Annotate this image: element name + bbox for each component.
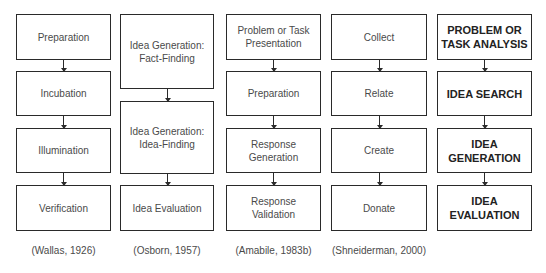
stage-box-incubation: Incubation [16,71,111,116]
arrow-down-icon [273,116,274,128]
stage-label: Donate [363,202,395,215]
arrow-down-icon [273,173,274,185]
stage-box-relate: Relate [331,71,427,116]
stage-box-preparation: Preparation [226,71,321,116]
citation-caption: (Shneiderman, 2000) [321,245,437,256]
stage-box-idea-finding: Idea Generation: Idea-Finding [120,101,214,174]
stage-label: Illumination [38,144,89,157]
stage-box-collect: Collect [331,14,427,60]
stage-label: Collect [364,31,395,44]
stage-box-idea-search: IDEA SEARCH [437,71,532,116]
arrow-down-icon [484,116,485,128]
citation-caption: (Osborn, 1957) [120,245,214,256]
stage-label: Verification [39,202,88,215]
arrow-down-icon [379,116,380,128]
stage-label: Preparation [248,87,300,100]
arrow-down-icon [379,173,380,185]
citation-caption: (Amabile, 1983b) [226,245,321,256]
stage-label: Create [364,144,394,157]
stage-box-problem-analysis: PROBLEM OR TASK ANALYSIS [437,14,532,60]
stage-box-illumination: Illumination [16,128,111,173]
stage-label: Incubation [40,87,86,100]
stage-box-verification: Verification [16,185,111,231]
stage-box-preparation: Preparation [16,14,111,60]
stage-label: Response Validation [251,195,296,221]
stage-box-response-validation: Response Validation [226,185,321,231]
stage-box-response-generation: Response Generation [226,128,321,173]
stage-label: Preparation [38,31,90,44]
stage-label: PROBLEM OR TASK ANALYSIS [441,23,527,51]
stage-label: Idea Generation: Idea-Finding [130,125,205,151]
citation-caption: (Wallas, 1926) [16,245,111,256]
stage-box-create: Create [331,128,427,173]
arrow-down-icon [63,173,64,185]
stage-label: Relate [365,87,394,100]
arrow-down-icon [167,174,168,185]
arrow-down-icon [63,60,64,71]
stage-label: IDEA SEARCH [447,87,522,101]
stage-box-idea-generation: IDEA GENERATION [437,128,532,173]
stage-box-donate: Donate [331,185,427,231]
stage-box-idea-evaluation: Idea Evaluation [120,185,214,231]
stage-label: IDEA EVALUATION [450,194,520,222]
stage-label: Response Generation [249,138,298,164]
stage-box-fact-finding: Idea Generation: Fact-Finding [120,14,214,89]
arrow-down-icon [273,60,274,71]
stage-box-problem-presentation: Problem or Task Presentation [226,14,321,60]
stage-label: Idea Generation: Fact-Finding [130,39,205,65]
arrow-down-icon [63,116,64,128]
arrow-down-icon [167,89,168,101]
stage-label: Problem or Task Presentation [237,24,309,50]
arrow-down-icon [379,60,380,71]
arrow-down-icon [484,60,485,71]
stage-box-idea-evaluation: IDEA EVALUATION [437,185,532,231]
stage-label: Idea Evaluation [133,202,202,215]
arrow-down-icon [484,173,485,185]
stage-label: IDEA GENERATION [448,137,521,165]
